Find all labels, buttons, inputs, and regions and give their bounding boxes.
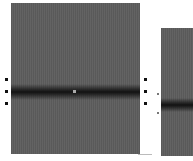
marker-dot: [144, 90, 147, 93]
left-image-panel: [11, 3, 140, 154]
tick-mark: [157, 112, 159, 114]
marker-dot: [5, 78, 8, 81]
scale-bar: [138, 154, 152, 155]
tick-mark: [157, 93, 159, 95]
marker-dot: [5, 102, 8, 105]
marker-dot: [144, 102, 147, 105]
marker-dot: [5, 90, 8, 93]
dark-band: [161, 98, 193, 112]
right-image-panel: [161, 28, 193, 156]
center-marker: [73, 90, 76, 93]
marker-dot: [144, 78, 147, 81]
